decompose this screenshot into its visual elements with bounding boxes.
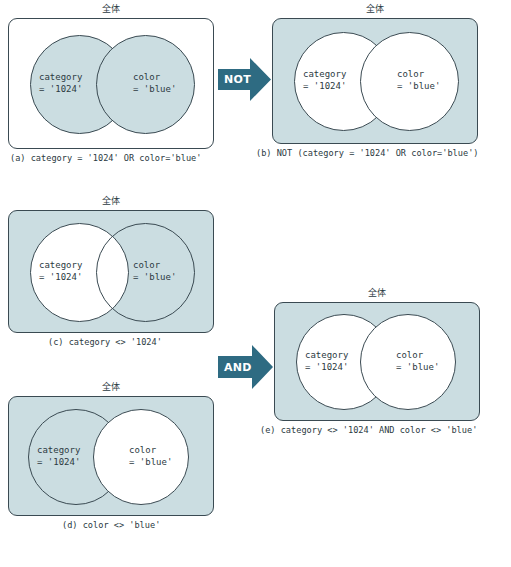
circle-category-label-line2-b: = '1024' — [303, 81, 346, 91]
circle-color-label-line1-c: color — [133, 260, 160, 270]
venn-panel-d: 全体 category= '1024' color= 'blue' (d) co… — [8, 382, 214, 542]
circle-color-label-a: color= 'blue' — [133, 72, 176, 95]
circle-color-label-line1-b: color — [397, 69, 424, 79]
circle-category-label-line1-a: category — [39, 72, 82, 82]
universe-label-d: 全体 — [8, 382, 214, 393]
circle-category-label-line2-c: = '1024' — [39, 272, 82, 282]
venn-panel-e: 全体 category= '1024' color= 'blue' (e) ca… — [274, 288, 480, 448]
circle-color-label-c: color= 'blue' — [133, 260, 176, 283]
circle-color-label-line2-e: = 'blue' — [396, 362, 439, 372]
circle-category-label-line2-e: = '1024' — [305, 362, 348, 372]
circle-category-label-c: category= '1024' — [39, 260, 82, 283]
caption-a: (a) category = '1024' OR color='blue' — [10, 153, 201, 164]
circle-category-label-a: category= '1024' — [39, 72, 82, 95]
circle-color-label-line2-c: = 'blue' — [133, 272, 176, 282]
circle-color-label-line2-b: = 'blue' — [397, 81, 440, 91]
universe-label-a: 全体 — [8, 4, 214, 15]
caption-c: (c) category <> '1024' — [48, 337, 162, 348]
circle-category-label-e: category= '1024' — [305, 350, 348, 373]
arrow-and: AND — [218, 344, 274, 390]
circle-color-label-line1-d: color — [129, 445, 156, 455]
universe-label-c: 全体 — [8, 196, 214, 207]
circle-color-label-e: color= 'blue' — [396, 350, 439, 373]
arrow-not-label: NOT — [218, 73, 272, 86]
venn-panel-b: 全体 category= '1024' color= 'blue' (b) NO… — [272, 4, 478, 164]
venn-panel-a: 全体 category= '1024' color= 'blue' (a) ca… — [8, 4, 214, 164]
circle-category-label-line1-b: category — [303, 69, 346, 79]
caption-e: (e) category <> '1024' AND color <> 'blu… — [260, 425, 477, 436]
circle-color-label-line1-a: color — [133, 72, 160, 82]
circle-color-label-d: color= 'blue' — [129, 445, 172, 468]
venn-panel-c: 全体 category= '1024' color= 'blue' (c) ca… — [8, 196, 214, 356]
caption-d: (d) color <> 'blue' — [62, 520, 160, 531]
circle-category-label-b: category= '1024' — [303, 69, 346, 92]
circle-category-label-line1-d: category — [37, 445, 80, 455]
circle-color-label-b: color= 'blue' — [397, 69, 440, 92]
circle-color-label-line2-d: = 'blue' — [129, 457, 172, 467]
arrow-not: NOT — [218, 57, 272, 102]
circle-category-label-d: category= '1024' — [37, 445, 80, 468]
circle-category-label-line1-e: category — [305, 350, 348, 360]
universe-label-e: 全体 — [274, 288, 480, 299]
universe-label-b: 全体 — [272, 4, 478, 15]
circle-color-label-line1-e: color — [396, 350, 423, 360]
circle-category-label-line2-d: = '1024' — [37, 457, 80, 467]
circle-category-label-line2-a: = '1024' — [39, 84, 82, 94]
circle-color-label-line2-a: = 'blue' — [133, 84, 176, 94]
caption-b: (b) NOT (category = '1024' OR color='blu… — [256, 148, 478, 159]
arrow-and-label: AND — [218, 361, 274, 374]
circle-category-label-line1-c: category — [39, 260, 82, 270]
